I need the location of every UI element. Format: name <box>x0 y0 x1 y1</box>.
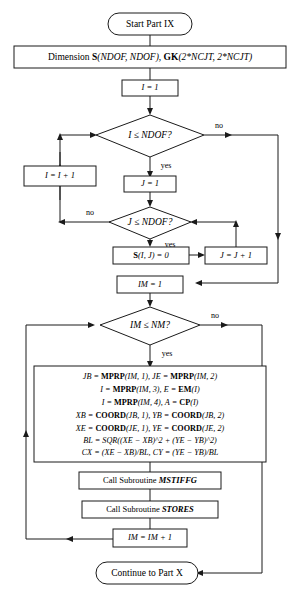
decision-i-yes-label: yes <box>161 161 172 170</box>
start-label: Start Part IX <box>126 19 174 29</box>
compute-line-0: JB = MPRP(IM, 1), JE = MPRP(IM, 2) <box>83 372 218 381</box>
compute-line-3: XB = COORD(JB, 1), YB = COORD(JB, 2) <box>75 411 225 420</box>
call-mstiffg-label: Call Subroutine MSTIFFG <box>103 475 198 485</box>
node-im-incr: IM = IM + 1 <box>113 529 187 547</box>
j-incr-label: J = J + 1 <box>220 250 252 260</box>
decision-i-label: I ≤ NDOF? <box>127 130 172 140</box>
node-decision-im: IM ≤ NM? no yes <box>100 307 219 358</box>
compute-line-6: CX = (XE − XB)/BL, CY = (YE − YB)/BL <box>82 448 219 457</box>
compute-line-2: I = MPRP(IM, 4), A = CP(I) <box>101 398 199 407</box>
node-i-incr: I = I + 1 <box>24 166 96 186</box>
node-im-init: IM = 1 <box>117 276 183 293</box>
node-decision-j: J ≤ NDOF? no yes <box>86 207 191 249</box>
node-start: Start Part IX <box>108 13 192 35</box>
decision-im-yes-label: yes <box>162 349 173 358</box>
flowchart-diagram: Start Part IX Dimension S(NDOF, NDOF), G… <box>0 0 294 595</box>
i-incr-label: I = I + 1 <box>44 170 75 180</box>
node-j-incr: J = J + 1 <box>205 247 267 264</box>
node-decision-i: I ≤ NDOF? no yes <box>96 115 223 170</box>
decision-im-no-label: no <box>211 311 219 320</box>
i-init-label: I = 1 <box>140 82 158 92</box>
node-i-init: I = 1 <box>122 80 178 96</box>
dimension-label: Dimension S(NDOF, NDOF), GK(2*NCJT, 2*NC… <box>48 52 252 63</box>
decision-im-label: IM ≤ NM? <box>129 320 170 330</box>
edge-jincr-loop <box>192 222 236 247</box>
j-init-label: J = 1 <box>141 178 159 188</box>
im-init-label: IM = 1 <box>137 279 162 289</box>
decision-j-no-label: no <box>86 208 94 217</box>
node-call-mstiffg: Call Subroutine MSTIFFG <box>79 472 221 489</box>
call-stores-label: Call Subroutine STORES <box>106 504 194 514</box>
node-dimension: Dimension S(NDOF, NDOF), GK(2*NCJT, 2*NC… <box>14 46 286 68</box>
im-incr-label: IM = IM + 1 <box>127 532 172 542</box>
node-j-init: J = 1 <box>124 176 176 192</box>
compute-line-4: XE = COORD(JE, 1), YE = COORD(JE, 2) <box>75 424 225 433</box>
decision-j-label: J ≤ NDOF? <box>128 217 173 227</box>
node-s-zero: S(I, J) = 0 <box>113 247 189 264</box>
node-compute: JB = MPRP(IM, 1), JE = MPRP(IM, 2) I = M… <box>34 366 266 462</box>
compute-line-5: BL = SQR((XE − XB)^2 + (YE − YB)^2) <box>83 436 217 445</box>
node-call-stores: Call Subroutine STORES <box>82 501 218 518</box>
decision-i-no-label: no <box>215 121 223 130</box>
node-end: Continue to Part X <box>96 562 198 584</box>
s-zero-label: S(I, J) = 0 <box>133 250 169 260</box>
end-label: Continue to Part X <box>111 568 183 578</box>
compute-line-1: I = MPRP(IM, 3), E = EM(I) <box>99 385 200 394</box>
